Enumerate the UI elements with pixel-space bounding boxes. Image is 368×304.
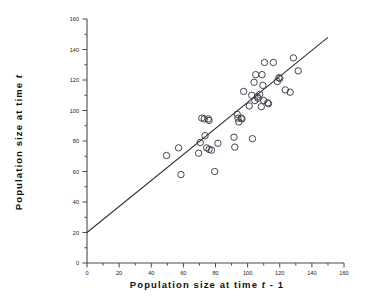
x-tick-label: 0: [85, 270, 88, 276]
data-point: [260, 82, 266, 88]
data-point: [231, 134, 237, 140]
data-points: [163, 55, 301, 178]
data-point: [163, 152, 169, 158]
data-point: [259, 71, 265, 77]
y-tick-label: 140: [70, 47, 79, 53]
data-point: [246, 103, 252, 109]
data-point: [232, 144, 238, 150]
x-tick-label: 80: [212, 270, 218, 276]
scatter-plot-figure: 0204060801001201401600204060801001201401…: [0, 0, 368, 304]
x-axis-title: Population size at time t - 1: [130, 279, 284, 290]
data-point: [258, 103, 264, 109]
data-point: [270, 59, 276, 65]
x-tick-label: 40: [148, 270, 154, 276]
x-tick-label: 100: [243, 270, 252, 276]
data-point: [240, 88, 246, 94]
data-point: [195, 150, 201, 156]
y-tick-label: 60: [73, 169, 79, 175]
y-tick-label: 0: [76, 260, 79, 266]
identity-trend-line: [87, 37, 328, 232]
trend-line: [87, 37, 328, 232]
data-point: [252, 71, 258, 77]
x-tick-label: 20: [116, 270, 122, 276]
y-axis-title: Population size at time t: [13, 74, 24, 210]
y-tick-label: 80: [73, 138, 79, 144]
scatter-plot-canvas: 0204060801001201401600204060801001201401…: [0, 0, 368, 304]
data-point: [295, 68, 301, 74]
y-tick-label: 40: [73, 199, 79, 205]
data-point: [261, 59, 267, 65]
data-point: [290, 55, 296, 61]
data-point: [249, 136, 255, 142]
data-point: [215, 140, 221, 146]
data-point: [251, 79, 257, 85]
x-tick-label: 140: [307, 270, 316, 276]
y-tick-label: 120: [70, 77, 79, 83]
y-tick-label: 20: [73, 230, 79, 236]
data-point: [211, 168, 217, 174]
data-point: [178, 171, 184, 177]
x-tick-label: 160: [339, 270, 348, 276]
x-tick-label: 120: [275, 270, 284, 276]
data-point: [175, 145, 181, 151]
x-tick-label: 60: [180, 270, 186, 276]
y-tick-label: 160: [70, 16, 79, 22]
y-tick-label: 100: [70, 108, 79, 114]
